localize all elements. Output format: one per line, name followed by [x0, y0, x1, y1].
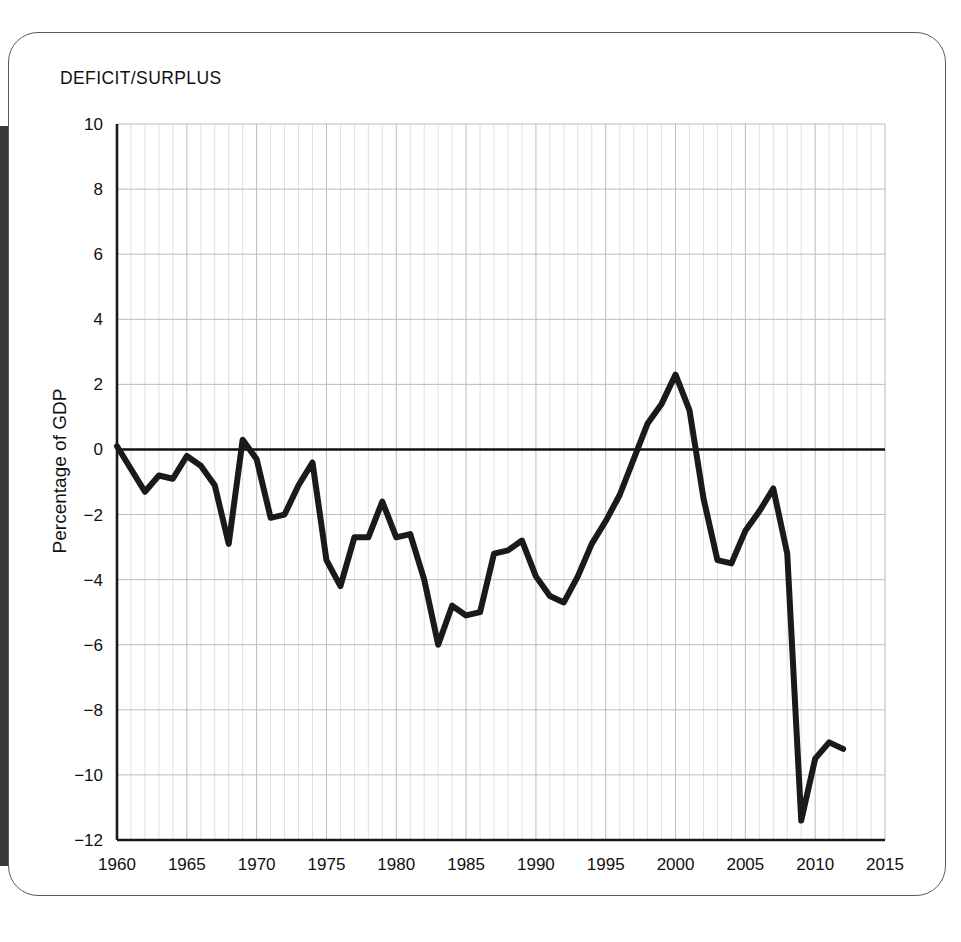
svg-text:6: 6	[94, 245, 103, 264]
y-tick-labels: 1086420−2−4−6−8−10−12	[74, 115, 103, 850]
svg-text:0: 0	[94, 440, 103, 459]
svg-text:2: 2	[94, 375, 103, 394]
svg-text:8: 8	[94, 180, 103, 199]
major-gridlines	[117, 124, 885, 840]
svg-text:1985: 1985	[447, 855, 485, 874]
svg-text:2000: 2000	[657, 855, 695, 874]
svg-text:−6: −6	[84, 636, 103, 655]
minor-gridlines	[117, 124, 885, 840]
svg-text:−12: −12	[74, 831, 103, 850]
svg-text:2005: 2005	[726, 855, 764, 874]
svg-text:1975: 1975	[308, 855, 346, 874]
svg-text:1980: 1980	[377, 855, 415, 874]
axis-lines	[117, 124, 885, 840]
x-tick-labels: 1960196519701975198019851990199520002005…	[98, 855, 904, 874]
svg-text:10: 10	[84, 115, 103, 134]
svg-text:1965: 1965	[168, 855, 206, 874]
svg-text:−10: −10	[74, 766, 103, 785]
svg-text:1970: 1970	[238, 855, 276, 874]
svg-text:−2: −2	[84, 506, 103, 525]
svg-text:−8: −8	[84, 701, 103, 720]
svg-text:1990: 1990	[517, 855, 555, 874]
svg-text:4: 4	[94, 310, 103, 329]
chart-svg: 1086420−2−4−6−8−10−12 196019651970197519…	[0, 0, 961, 942]
svg-text:1995: 1995	[587, 855, 625, 874]
svg-text:−4: −4	[84, 571, 103, 590]
chart-plot: 1086420−2−4−6−8−10−12 196019651970197519…	[0, 0, 961, 942]
svg-text:1960: 1960	[98, 855, 136, 874]
svg-text:2015: 2015	[866, 855, 904, 874]
svg-text:2010: 2010	[796, 855, 834, 874]
screenshot-stage: t DEFICIT/SURPLUS Percentage of GDP 1086…	[0, 0, 961, 942]
